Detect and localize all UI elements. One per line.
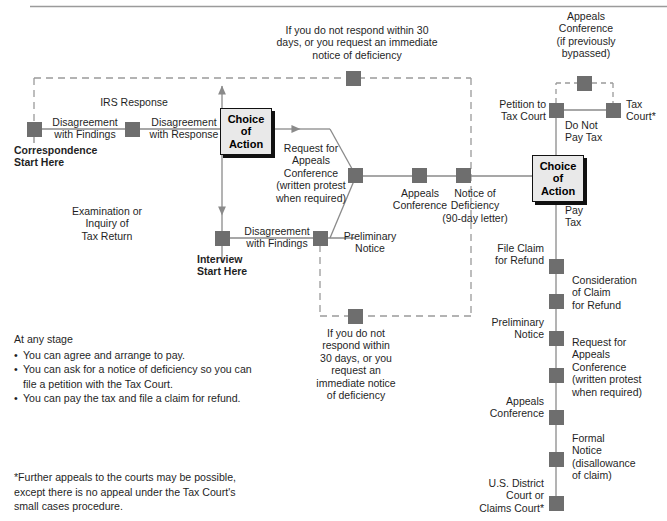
label-appeals-conference-bypassed: Appeals Conference (if previously bypass…	[543, 10, 629, 60]
list-item: You can pay the tax and file a claim for…	[14, 391, 284, 406]
label-do-not-pay-tax: Do Not Pay Tax	[565, 119, 625, 144]
list-item: You can ask for a notice of deficiency s…	[14, 362, 284, 391]
node-notice-of-deficiency	[456, 168, 471, 183]
notes-heading: At any stage	[14, 332, 284, 347]
label-notice-of-deficiency: Notice of Deficiency (90-day letter)	[425, 187, 525, 224]
label-top-dashed-note: If you do not respond within 30 days, or…	[257, 24, 457, 61]
node-file-claim-for-refund	[549, 259, 564, 274]
node-petition-to-tax-court	[549, 103, 564, 118]
label-interview-start: Interview Start Here	[197, 253, 307, 278]
label-preliminary-notice-center: Preliminary Notice	[332, 230, 408, 255]
node-appeals-conference-bypassed	[577, 76, 592, 91]
node-correspondence-start	[27, 122, 42, 137]
flowchart-canvas: Choice of Action Choice of Action IRS Re…	[0, 0, 667, 521]
label-bottom-dashed-note: If you do not respond within 30 days, or…	[304, 327, 408, 401]
node-top-dashed	[346, 71, 361, 86]
node-bottom-dashed	[348, 309, 363, 324]
node-tax-court	[606, 103, 621, 118]
label-consideration-of-claim: Consideration of Claim for Refund	[572, 274, 666, 311]
footnote: *Further appeals to the courts may be po…	[14, 470, 314, 514]
label-request-for-appeals-conference-right: Request for Appeals Conference (written …	[572, 336, 667, 398]
list-item: You can agree and arrange to pay.	[14, 348, 284, 363]
label-petition-to-tax-court: Petition to Tax Court	[480, 98, 546, 123]
at-any-stage-notes: At any stage You can agree and arrange t…	[14, 332, 284, 406]
connector-lines	[0, 0, 667, 521]
label-file-claim-for-refund: File Claim for Refund	[470, 242, 544, 267]
node-appeals-conference-center	[412, 168, 427, 183]
label-disagreement-with-findings-bottom: Disagreement with Findings	[232, 225, 322, 250]
choice-of-action-box-right[interactable]: Choice of Action	[532, 155, 584, 202]
label-appeals-conference-right: Appeals Conference	[468, 395, 544, 420]
label-formal-notice: Formal Notice (disallowance of claim)	[572, 432, 666, 482]
label-irs-response: IRS Response	[84, 96, 184, 108]
node-interview-start	[215, 231, 230, 246]
node-formal-notice	[549, 452, 564, 467]
label-request-for-appeals-conference-left: Request for Appeals Conference (written …	[265, 142, 357, 204]
label-preliminary-notice-right: Preliminary Notice	[470, 316, 544, 341]
label-tax-court: Tax Court*	[626, 98, 666, 123]
label-district-court: U.S. District Court or Claims Court*	[462, 477, 544, 514]
node-request-appeals-right	[549, 368, 564, 383]
label-pay-tax: Pay Tax	[565, 204, 615, 229]
node-consideration-of-claim	[549, 294, 564, 309]
label-examination-or-inquiry: Examination or Inquiry of Tax Return	[47, 205, 167, 242]
node-appeals-conference-right	[549, 410, 564, 425]
label-correspondence-start: Correspondence Start Here	[14, 144, 144, 169]
notes-list: You can agree and arrange to pay. You ca…	[14, 348, 284, 406]
label-disagreement-with-findings-top: Disagreement with Findings	[42, 116, 128, 141]
label-disagreement-with-response: Disagreement with Response	[138, 116, 230, 141]
node-preliminary-notice-right	[549, 331, 564, 346]
node-district-court	[549, 496, 564, 511]
